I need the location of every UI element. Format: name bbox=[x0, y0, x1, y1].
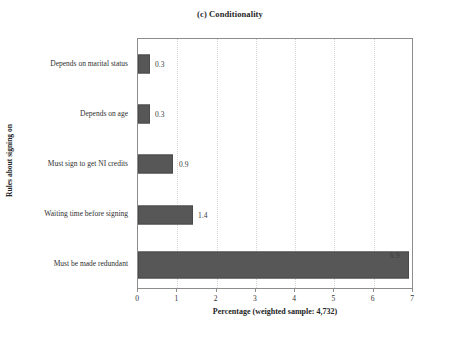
bar-value-label: 0.9 bbox=[179, 160, 188, 169]
x-tick-label: 5 bbox=[332, 294, 336, 303]
y-axis-tick-label: Waiting time before signing bbox=[0, 189, 128, 239]
y-axis-category-labels: Depends on marital status Depends on age… bbox=[0, 38, 133, 289]
plot-area: 0.3 0.3 0.9 1.4 6.9 bbox=[137, 38, 413, 289]
bars-layer: 0.3 0.3 0.9 1.4 6.9 bbox=[138, 39, 412, 288]
chart-title: (c) Conditionality bbox=[0, 9, 460, 19]
x-tick-mark bbox=[137, 289, 138, 292]
x-tick-label: 3 bbox=[253, 294, 257, 303]
x-axis-title: Percentage (weighted sample: 4,732) bbox=[137, 307, 413, 316]
y-axis-tick-label: Depends on marital status bbox=[0, 38, 128, 88]
x-tick-mark bbox=[176, 289, 177, 292]
bar-depends-on-age[interactable] bbox=[138, 105, 150, 124]
x-tick-label: 1 bbox=[174, 294, 178, 303]
bar-row: 1.4 bbox=[138, 190, 412, 240]
x-tick-label: 7 bbox=[410, 294, 414, 303]
bar-row: 6.9 bbox=[138, 240, 412, 290]
x-tick-label: 6 bbox=[371, 294, 375, 303]
x-tick-mark bbox=[412, 289, 413, 292]
x-tick-mark bbox=[373, 289, 374, 292]
y-axis-tick-label: Must sign to get NI credits bbox=[0, 138, 128, 188]
x-tick-mark bbox=[255, 289, 256, 292]
chart-figure: (c) Conditionality Rules about signing o… bbox=[0, 0, 460, 337]
bar-row: 0.3 bbox=[138, 39, 412, 89]
x-tick-mark bbox=[294, 289, 295, 292]
x-tick-label: 4 bbox=[292, 294, 296, 303]
y-axis-tick-label: Must be made redundant bbox=[0, 239, 128, 289]
bar-value-label: 1.4 bbox=[198, 210, 207, 219]
x-axis-ticks: 0 1 2 3 4 5 6 7 bbox=[137, 289, 413, 309]
y-axis-tick-label: Depends on age bbox=[0, 88, 128, 138]
bar-row: 0.3 bbox=[138, 89, 412, 139]
x-tick-label: 0 bbox=[135, 294, 139, 303]
bar-must-be-made-redundant[interactable] bbox=[138, 251, 409, 278]
x-tick-mark bbox=[333, 289, 334, 292]
bar-waiting-time-before-signing[interactable] bbox=[138, 205, 193, 224]
bar-value-label: 0.3 bbox=[155, 60, 164, 69]
bar-row: 0.9 bbox=[138, 139, 412, 189]
x-tick-mark bbox=[216, 289, 217, 292]
bar-depends-on-marital-status[interactable] bbox=[138, 55, 150, 74]
bar-value-label: 6.9 bbox=[390, 251, 399, 260]
bar-must-sign-to-get-ni-credits[interactable] bbox=[138, 155, 173, 174]
x-tick-label: 2 bbox=[214, 294, 218, 303]
bar-value-label: 0.3 bbox=[155, 110, 164, 119]
